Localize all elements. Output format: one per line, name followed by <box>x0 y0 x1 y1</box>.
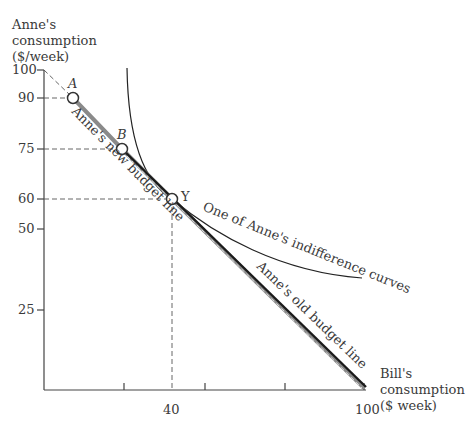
old-budget-line-label: Anne's old budget line <box>253 258 370 372</box>
indifference-curve-label: One of Anne's indifference curves <box>201 199 413 296</box>
point-a-marker <box>68 93 79 104</box>
point-y-label: Y <box>180 189 190 204</box>
chart-canvas: A B Y Anne's new budget line One of Anne… <box>0 0 468 426</box>
point-a-label: A <box>67 76 77 91</box>
guide-lines <box>44 70 172 390</box>
new-budget-line-label: Anne's new budget line <box>68 103 188 224</box>
point-b-label: B <box>116 127 127 142</box>
